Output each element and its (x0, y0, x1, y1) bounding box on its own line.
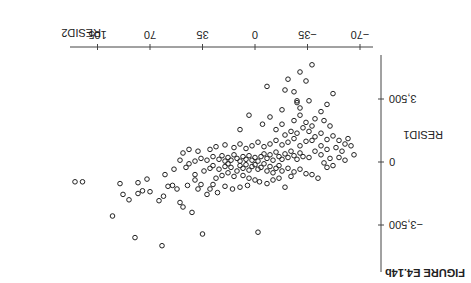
data-point (319, 131, 324, 136)
data-point (259, 154, 264, 159)
data-point (325, 147, 330, 152)
data-point (283, 88, 288, 93)
y-tick-label: 3,500 (389, 93, 417, 105)
data-point (193, 159, 198, 164)
data-point (145, 177, 150, 182)
data-point (280, 143, 285, 148)
data-point (346, 136, 351, 141)
data-point (331, 91, 336, 96)
data-point (280, 157, 285, 162)
data-point (352, 153, 357, 158)
data-point (337, 138, 342, 143)
data-point (208, 166, 213, 171)
data-point (238, 159, 243, 164)
data-point (110, 214, 115, 219)
data-point (257, 180, 262, 185)
data-point (277, 163, 282, 168)
data-point (343, 158, 348, 163)
figure-title: FIGURE E4.14b (385, 267, 465, 279)
data-point (238, 127, 243, 132)
data-point (268, 153, 273, 158)
data-point (298, 106, 303, 111)
data-point (223, 143, 228, 148)
data-point (277, 176, 282, 181)
data-point (322, 118, 327, 123)
data-point (307, 129, 312, 134)
data-point (214, 144, 219, 149)
data-point (196, 187, 201, 192)
scatter-plot: FIGURE E4.14b −70−3503570105 −3,50003,50… (0, 0, 471, 283)
data-point (223, 184, 228, 189)
data-point (319, 144, 324, 149)
data-point (334, 145, 339, 150)
data-point (200, 232, 205, 237)
data-point (271, 158, 276, 163)
data-point (265, 169, 270, 174)
data-point (292, 118, 297, 123)
data-point (286, 155, 291, 160)
data-point (340, 149, 345, 154)
data-point (157, 198, 162, 203)
data-point (310, 138, 315, 143)
data-point (298, 144, 303, 149)
data-point (262, 152, 267, 157)
data-point (229, 158, 234, 163)
data-point (274, 138, 279, 143)
data-point (262, 162, 267, 167)
y-tick-label: −3,500 (389, 219, 423, 231)
x-axis: −70−3503570105 (70, 29, 373, 50)
data-point (283, 185, 288, 190)
data-point (289, 129, 294, 134)
data-point (286, 140, 291, 145)
data-point (185, 183, 190, 188)
data-point (304, 120, 309, 125)
x-tick-label: −35 (298, 29, 317, 41)
data-point (232, 145, 237, 150)
data-point (292, 136, 297, 141)
data-point (253, 178, 258, 183)
data-point (208, 187, 213, 192)
data-point (244, 162, 249, 167)
data-point (304, 79, 309, 84)
data-point (235, 156, 240, 161)
data-point (274, 127, 279, 132)
data-point (256, 230, 261, 235)
data-point (136, 180, 141, 185)
y-axis-label: RESID1 (403, 129, 443, 141)
data-point (223, 164, 228, 169)
data-point (313, 149, 318, 154)
data-point (277, 154, 282, 159)
data-point (280, 122, 285, 127)
data-points (73, 63, 357, 249)
data-point (319, 109, 324, 114)
data-point (304, 139, 309, 144)
x-tick-label: 70 (144, 29, 156, 41)
data-point (325, 165, 330, 170)
data-point (247, 113, 252, 118)
data-point (172, 167, 177, 172)
data-point (229, 165, 234, 170)
data-point (331, 134, 336, 139)
data-point (319, 153, 324, 158)
x-tick-label: 0 (252, 29, 258, 41)
data-point (208, 147, 213, 152)
data-point (245, 183, 250, 188)
data-point (260, 122, 265, 127)
data-point (160, 243, 165, 248)
data-point (238, 142, 243, 147)
data-point (205, 158, 210, 163)
data-point (178, 200, 183, 205)
data-point (241, 154, 246, 159)
data-point (205, 192, 210, 197)
y-tick-label: 0 (389, 156, 395, 168)
data-point (298, 113, 303, 118)
data-point (280, 108, 285, 113)
data-point (244, 146, 249, 151)
data-point (328, 124, 333, 129)
data-point (325, 102, 330, 107)
data-point (289, 174, 294, 179)
data-point (80, 180, 85, 185)
data-point (301, 154, 306, 159)
x-tick-label: −70 (351, 29, 370, 41)
data-point (196, 149, 201, 154)
